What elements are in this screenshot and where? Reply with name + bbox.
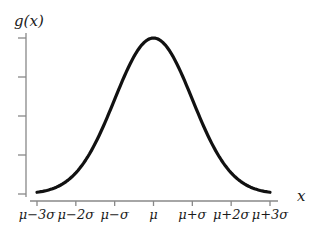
x-tick-labels: μ−3σμ−2σμ−σμμ+σμ+2σμ+3σ bbox=[19, 207, 290, 222]
normal-distribution-chart: g(x) x μ−3σμ−2σμ−σμμ+σμ+2σμ+3σ bbox=[0, 0, 318, 234]
x-tick-label: μ−σ bbox=[101, 207, 130, 222]
series-line-gx bbox=[37, 38, 270, 192]
x-tick-label: μ bbox=[149, 207, 157, 222]
x-tick-label: μ+σ bbox=[178, 207, 207, 222]
x-axis bbox=[30, 201, 278, 206]
y-axis bbox=[18, 33, 26, 197]
x-tick-label: μ+2σ bbox=[213, 207, 251, 222]
x-axis-title: x bbox=[297, 187, 306, 205]
y-axis-title: g(x) bbox=[14, 12, 44, 30]
x-tick-label: μ−3σ bbox=[19, 207, 57, 222]
x-tick-label: μ−2σ bbox=[58, 207, 96, 222]
x-tick-label: μ+3σ bbox=[252, 207, 290, 222]
curve-layer bbox=[37, 38, 270, 192]
